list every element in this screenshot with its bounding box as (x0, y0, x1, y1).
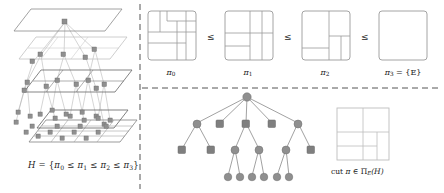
partition-label-pi2: π2 (305, 68, 345, 77)
lattice-pyramid-panel (14, 9, 137, 142)
tree-node (285, 173, 293, 181)
partition-square-pi3 (379, 11, 427, 60)
tree-edges (182, 97, 311, 176)
partition-label-pi1: π1 (228, 68, 268, 77)
tree-node (231, 146, 239, 154)
tree-node (216, 120, 224, 128)
tree-node (273, 173, 281, 181)
tree-node (294, 120, 302, 128)
tree-node (260, 173, 268, 181)
lattice-caption-close: } (133, 160, 139, 170)
tree-node (242, 120, 250, 128)
tree-node (178, 146, 186, 154)
partition-chain-panel: ≤ ≤ ≤ (148, 11, 427, 60)
tree-node (207, 146, 215, 154)
partition-label-pi3: π3 = {E} (373, 68, 433, 77)
partition-square-pi0 (148, 11, 196, 60)
lattice-caption-eq: = { (36, 160, 55, 170)
tree-node (282, 146, 290, 154)
figure-root: ≤ ≤ ≤ (0, 0, 444, 193)
tree-node (268, 120, 276, 128)
relation-symbol-2: ≤ (361, 32, 369, 42)
relation-symbol-0: ≤ (207, 32, 215, 42)
lattice-plane-3 (19, 37, 127, 59)
lattice-node (62, 19, 67, 24)
tree-node (224, 173, 232, 181)
lattice-plane-2 (24, 70, 132, 92)
partition-square-pi1 (225, 11, 273, 60)
lattice-caption-H: H (28, 160, 36, 170)
tree-node (236, 173, 244, 181)
partition-label-pi0: π0 (151, 68, 191, 77)
cut-tree-caption: cut π ∈ ΠE(H) (331, 167, 384, 176)
tree-node (255, 146, 263, 154)
tree-node (193, 120, 201, 128)
tree-node (307, 146, 315, 154)
partition-square-pi2 (302, 11, 350, 60)
tree-node-root (243, 93, 251, 101)
lattice-level2-nodes (22, 78, 107, 93)
lattice-plane-top (14, 9, 122, 31)
cut-partition-square (337, 108, 389, 160)
lattice-caption: H = {π0 ≤ π1 ≤ π2 ≤ π3} (28, 160, 139, 171)
relation-symbol-1: ≤ (284, 32, 292, 42)
lattice-level1-nodes (14, 108, 112, 140)
tree-node (248, 173, 256, 181)
lattice-level3-nodes (30, 47, 97, 64)
